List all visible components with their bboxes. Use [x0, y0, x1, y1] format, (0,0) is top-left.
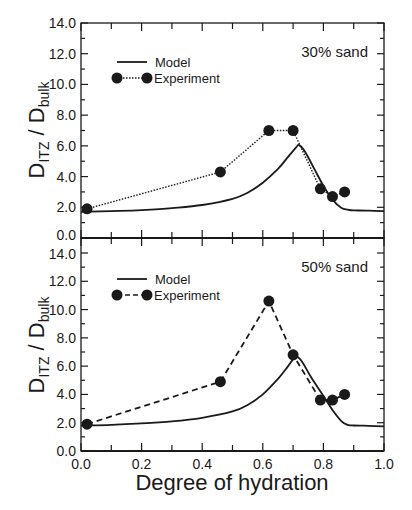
data-point-marker [315, 395, 326, 406]
y-tick-label: 4.0 [57, 169, 77, 185]
y-tick-label: 6.0 [57, 358, 77, 374]
legend: ModelExperiment [112, 55, 221, 86]
panel-50-sand: 0.02.04.06.08.010.012.014.00.00.20.40.60… [49, 238, 394, 472]
data-point-marker [327, 395, 338, 406]
legend-experiment-marker [142, 73, 153, 84]
data-point-marker [339, 389, 350, 400]
series-model [81, 356, 384, 426]
y-tick-label: 2.0 [57, 199, 77, 215]
panel-title: 30% sand [301, 43, 368, 60]
panel-30-sand: 0.02.04.06.08.010.012.014.030% sandModel… [49, 15, 384, 246]
chart-canvas: 0.02.04.06.08.010.012.014.030% sandModel… [0, 0, 412, 510]
y-tick-label: 12.0 [49, 46, 76, 62]
figure: 0.02.04.06.08.010.012.014.030% sandModel… [0, 0, 412, 510]
y-tick-label: 0.0 [57, 227, 77, 243]
series-model [81, 145, 384, 212]
y-tick-label: 10.0 [49, 76, 76, 92]
legend-model-label: Model [155, 272, 191, 287]
legend-experiment-marker [112, 290, 123, 301]
legend-experiment-marker [142, 290, 153, 301]
panel-title: 50% sand [301, 258, 368, 275]
data-point-marker [215, 376, 226, 387]
x-axis: 0.00.20.40.60.81.0 [71, 443, 394, 472]
data-point-marker [288, 349, 299, 360]
data-point-marker [288, 125, 299, 136]
legend: ModelExperiment [112, 272, 221, 303]
y-tick-label: 12.0 [49, 273, 76, 289]
legend-model-label: Model [155, 55, 191, 70]
x-tick-label: 0.0 [71, 456, 91, 472]
data-point-marker [339, 186, 350, 197]
legend-experiment-label: Experiment [154, 288, 220, 303]
series-experiment [82, 296, 351, 430]
svg-text:DITZ / Dbulk: DITZ / Dbulk [24, 81, 52, 179]
data-point-marker [263, 296, 274, 307]
y-tick-label: 2.0 [57, 415, 77, 431]
legend-experiment-marker [112, 73, 123, 84]
data-point-marker [215, 166, 226, 177]
y-axis-label-top: DITZ / Dbulk [24, 81, 52, 179]
data-point-marker [315, 183, 326, 194]
x-axis-title: Degree of hydration [135, 470, 328, 495]
y-tick-label: 14.0 [49, 15, 76, 31]
y-axis-label-bottom: DITZ / Dbulk [24, 296, 52, 394]
legend-experiment-label: Experiment [154, 71, 220, 86]
data-point-marker [327, 191, 338, 202]
data-point-marker [82, 203, 93, 214]
y-tick-label: 14.0 [49, 246, 76, 262]
y-tick-label: 8.0 [57, 107, 77, 123]
data-point-marker [82, 419, 93, 430]
y-tick-label: 6.0 [57, 138, 77, 154]
y-axis: 0.02.04.06.08.010.012.014.0 [49, 246, 384, 459]
y-tick-label: 8.0 [57, 330, 77, 346]
series-experiment [82, 125, 351, 214]
y-tick-label: 4.0 [57, 386, 77, 402]
x-tick-label: 1.0 [374, 456, 394, 472]
y-tick-label: 10.0 [49, 302, 76, 318]
svg-text:DITZ / Dbulk: DITZ / Dbulk [24, 296, 52, 394]
data-point-marker [263, 125, 274, 136]
